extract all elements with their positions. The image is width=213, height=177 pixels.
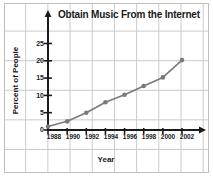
data-point-1988 bbox=[46, 124, 51, 129]
data-point-1998 bbox=[141, 84, 146, 89]
data-point-1994 bbox=[103, 100, 108, 105]
axes bbox=[45, 10, 206, 133]
data-point-1990 bbox=[65, 119, 70, 124]
data-point-2000 bbox=[161, 75, 166, 80]
series-line bbox=[48, 60, 182, 126]
plot-area bbox=[0, 0, 213, 177]
chart-figure: Obtain Music From the Internet Percent o… bbox=[0, 0, 213, 177]
data-point-1992 bbox=[84, 110, 89, 115]
data-point-2002 bbox=[180, 58, 185, 63]
series-markers bbox=[46, 58, 185, 129]
data-point-1996 bbox=[122, 92, 127, 97]
